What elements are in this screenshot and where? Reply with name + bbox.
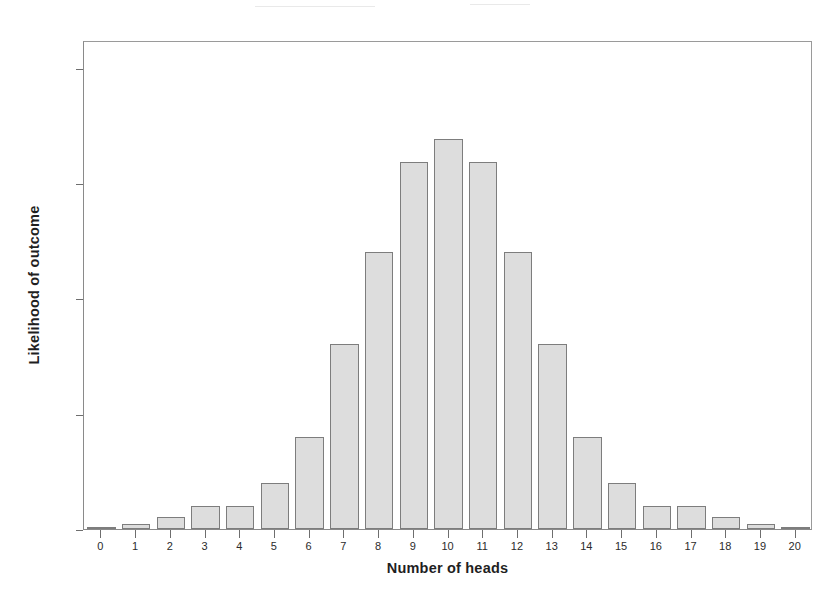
bar — [330, 344, 358, 529]
bar — [712, 517, 740, 529]
x-tick-label: 9 — [396, 540, 430, 552]
bar — [608, 483, 636, 529]
bar — [122, 524, 150, 529]
x-tick-mark — [135, 530, 136, 538]
x-tick-mark — [413, 530, 414, 538]
x-tick-label: 13 — [535, 540, 569, 552]
x-tick-label: 5 — [257, 540, 291, 552]
scan-artifact — [470, 4, 530, 5]
x-tick-label: 10 — [431, 540, 465, 552]
bar — [781, 527, 809, 529]
x-tick-mark — [795, 530, 796, 538]
x-tick-label: 17 — [674, 540, 708, 552]
x-tick-mark — [239, 530, 240, 538]
bar — [434, 139, 462, 529]
chart-figure: Likelihood of outcome 05101520 012345678… — [0, 0, 835, 598]
x-tick-label: 6 — [292, 540, 326, 552]
bar — [469, 162, 497, 529]
bar — [538, 344, 566, 529]
x-tick-label: 20 — [778, 540, 812, 552]
bar — [157, 517, 185, 529]
y-tick-mark — [76, 299, 83, 300]
bar — [191, 506, 219, 529]
x-tick-label: 3 — [188, 540, 222, 552]
x-tick-label: 12 — [500, 540, 534, 552]
bar — [261, 483, 289, 529]
scan-artifact — [255, 6, 375, 7]
x-tick-mark — [274, 530, 275, 538]
x-tick-label: 4 — [222, 540, 256, 552]
x-tick-label: 0 — [83, 540, 117, 552]
bar — [400, 162, 428, 529]
x-tick-mark — [170, 530, 171, 538]
x-tick-mark — [343, 530, 344, 538]
x-tick-mark — [725, 530, 726, 538]
x-tick-label: 1 — [118, 540, 152, 552]
bar — [677, 506, 705, 529]
x-tick-mark — [517, 530, 518, 538]
x-tick-label: 2 — [153, 540, 187, 552]
bar — [643, 506, 671, 529]
bar — [226, 506, 254, 529]
x-tick-label: 7 — [326, 540, 360, 552]
bar-series — [84, 42, 811, 529]
x-tick-mark — [448, 530, 449, 538]
x-tick-label: 11 — [465, 540, 499, 552]
x-tick-mark — [552, 530, 553, 538]
x-axis-title: Number of heads — [83, 560, 812, 576]
x-tick-label: 19 — [743, 540, 777, 552]
x-tick-label: 18 — [708, 540, 742, 552]
y-tick-mark — [76, 415, 83, 416]
bar — [573, 437, 601, 529]
y-tick-mark — [76, 184, 83, 185]
x-tick-label: 16 — [639, 540, 673, 552]
x-tick-mark — [621, 530, 622, 538]
x-tick-mark — [205, 530, 206, 538]
x-tick-mark — [656, 530, 657, 538]
x-tick-label: 14 — [569, 540, 603, 552]
y-tick-mark — [76, 69, 83, 70]
bar — [295, 437, 323, 529]
x-tick-mark — [309, 530, 310, 538]
x-tick-label: 15 — [604, 540, 638, 552]
x-tick-mark — [482, 530, 483, 538]
x-tick-mark — [586, 530, 587, 538]
bar — [87, 527, 115, 529]
x-tick-mark — [760, 530, 761, 538]
bar — [504, 252, 532, 529]
plot-area — [83, 41, 812, 530]
x-tick-label: 8 — [361, 540, 395, 552]
x-tick-mark — [378, 530, 379, 538]
y-tick-mark — [76, 530, 83, 531]
x-tick-mark — [100, 530, 101, 538]
bar — [747, 524, 775, 529]
x-tick-mark — [691, 530, 692, 538]
bar — [365, 252, 393, 529]
